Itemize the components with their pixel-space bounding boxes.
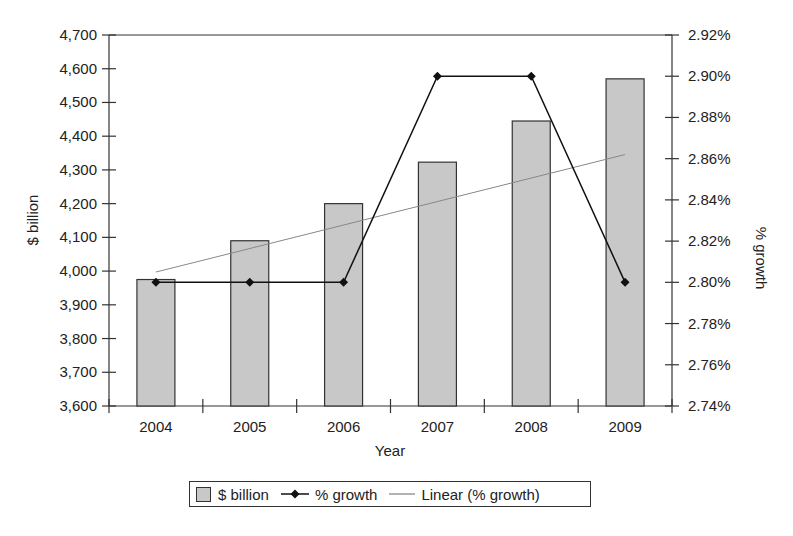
legend-item-trendline: Linear (% growth) bbox=[389, 486, 539, 503]
svg-text:4,100: 4,100 bbox=[59, 228, 97, 245]
svg-text:4,200: 4,200 bbox=[59, 195, 97, 212]
diamond-marker-icon bbox=[527, 72, 536, 81]
svg-text:4,500: 4,500 bbox=[59, 93, 97, 110]
legend-label: % growth bbox=[315, 486, 378, 503]
svg-text:4,000: 4,000 bbox=[59, 262, 97, 279]
svg-text:2005: 2005 bbox=[233, 418, 266, 435]
svg-text:2.76%: 2.76% bbox=[688, 356, 731, 373]
bar-2009 bbox=[606, 79, 644, 406]
combo-chart: 3,6003,7003,8003,9004,0004,1004,2004,300… bbox=[0, 0, 793, 536]
legend-item-growth: % growth bbox=[281, 486, 378, 503]
svg-text:4,600: 4,600 bbox=[59, 60, 97, 77]
diamond-marker-icon bbox=[433, 72, 442, 81]
bar-2005 bbox=[231, 241, 269, 406]
svg-text:2004: 2004 bbox=[139, 418, 172, 435]
svg-text:3,700: 3,700 bbox=[59, 363, 97, 380]
bar-swatch-icon bbox=[196, 487, 211, 502]
svg-text:4,700: 4,700 bbox=[59, 26, 97, 43]
left-axis: 3,6003,7003,8003,9004,0004,1004,2004,300… bbox=[59, 26, 116, 414]
right-axis: 2.74%2.76%2.78%2.80%2.82%2.84%2.86%2.88%… bbox=[665, 26, 731, 414]
legend-item-billion: $ billion bbox=[196, 486, 269, 503]
bar-2008 bbox=[512, 121, 550, 406]
svg-text:4,300: 4,300 bbox=[59, 161, 97, 178]
svg-text:2.82%: 2.82% bbox=[688, 232, 731, 249]
svg-text:4,400: 4,400 bbox=[59, 127, 97, 144]
svg-text:2.88%: 2.88% bbox=[688, 108, 731, 125]
svg-text:2.92%: 2.92% bbox=[688, 26, 731, 43]
line-diamond-marker-icon bbox=[281, 488, 309, 500]
svg-text:2.86%: 2.86% bbox=[688, 150, 731, 167]
svg-text:3,900: 3,900 bbox=[59, 296, 97, 313]
svg-text:2008: 2008 bbox=[515, 418, 548, 435]
plot-area bbox=[109, 35, 672, 406]
bar-series bbox=[137, 79, 644, 406]
bar-2004 bbox=[137, 280, 175, 406]
right-axis-title: % growth bbox=[753, 227, 770, 290]
bar-2007 bbox=[418, 162, 456, 406]
x-axis-title: Year bbox=[375, 442, 405, 459]
left-axis-title: $ billion bbox=[24, 195, 41, 246]
trendline-series bbox=[156, 155, 625, 272]
trendline-icon bbox=[389, 488, 415, 500]
svg-text:2.84%: 2.84% bbox=[688, 191, 731, 208]
legend-label: Linear (% growth) bbox=[421, 486, 539, 503]
svg-text:2.90%: 2.90% bbox=[688, 67, 731, 84]
growth-line-series bbox=[151, 72, 629, 287]
svg-text:2.78%: 2.78% bbox=[688, 315, 731, 332]
svg-text:3,800: 3,800 bbox=[59, 330, 97, 347]
svg-text:2.80%: 2.80% bbox=[688, 273, 731, 290]
legend: $ billion % growth Linear (% growth) bbox=[189, 481, 591, 507]
svg-text:2009: 2009 bbox=[608, 418, 641, 435]
svg-text:2007: 2007 bbox=[421, 418, 454, 435]
svg-text:3,600: 3,600 bbox=[59, 397, 97, 414]
svg-text:2.74%: 2.74% bbox=[688, 397, 731, 414]
svg-text:2006: 2006 bbox=[327, 418, 360, 435]
legend-label: $ billion bbox=[218, 486, 269, 503]
bar-2006 bbox=[325, 204, 363, 406]
x-axis: 200420052006200720082009 bbox=[109, 399, 672, 435]
